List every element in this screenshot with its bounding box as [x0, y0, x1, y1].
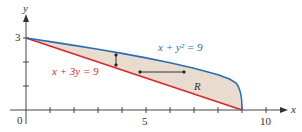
parabola-label: x + y² = 9: [157, 41, 203, 53]
y-tick-3-label: 3: [15, 31, 21, 43]
origin-label: 0: [17, 114, 23, 126]
x-tick-10-label: 10: [260, 115, 272, 127]
y-axis-arrow-icon: [23, 14, 29, 22]
x-axis-label: x: [290, 103, 296, 115]
line-label: x + 3y = 9: [51, 65, 99, 77]
x-tick-5-label: 5: [142, 115, 148, 127]
y-axis-label: y: [22, 2, 28, 14]
region-diagram: x + y² = 9 x + 3y = 9 R 0 5 10 3 x y: [0, 0, 302, 132]
x-axis-arrow-icon: [280, 107, 288, 113]
region-label: R: [193, 80, 201, 92]
